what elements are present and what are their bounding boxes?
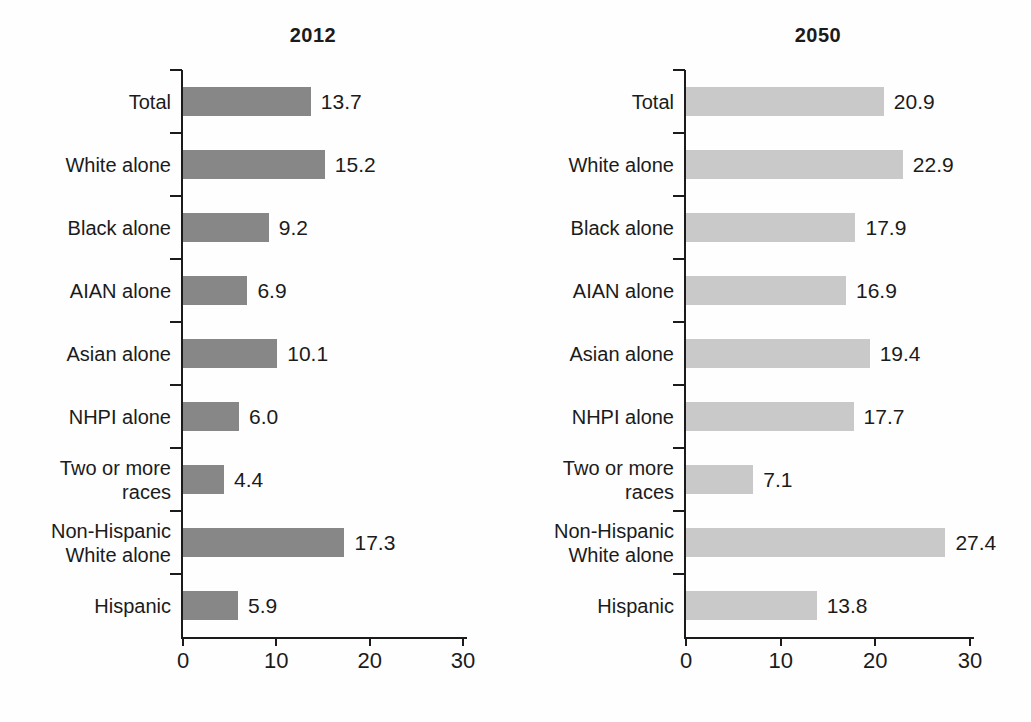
y-axis-tick	[673, 195, 685, 197]
bar	[686, 402, 854, 431]
y-axis-tick	[170, 69, 182, 71]
bar	[686, 339, 870, 368]
category-label: Hispanic	[0, 594, 171, 618]
x-axis-tick	[969, 637, 971, 646]
x-axis-tick	[874, 637, 876, 646]
bar	[183, 591, 238, 620]
category-label: Two or moreraces	[499, 456, 674, 504]
bar-value-label: 7.1	[763, 468, 792, 492]
bar	[686, 213, 855, 242]
category-label: White alone	[499, 153, 674, 177]
x-axis-tick	[462, 637, 464, 646]
bar	[183, 528, 344, 557]
bar-value-label: 17.9	[865, 216, 906, 240]
bar	[183, 402, 239, 431]
x-tick-label: 0	[161, 648, 205, 674]
bar-value-label: 9.2	[279, 216, 308, 240]
bar-value-label: 6.9	[257, 279, 286, 303]
category-label: Black alone	[0, 216, 171, 240]
x-tick-label: 0	[664, 648, 708, 674]
x-axis-tick	[780, 637, 782, 646]
category-label: AIAN alone	[0, 279, 171, 303]
y-axis-tick	[673, 69, 685, 71]
x-tick-label: 30	[441, 648, 485, 674]
category-label: Total	[0, 90, 171, 114]
x-tick-label: 10	[759, 648, 803, 674]
category-label: Total	[499, 90, 674, 114]
y-axis-tick	[673, 510, 685, 512]
bar	[686, 528, 945, 557]
x-tick-label: 20	[853, 648, 897, 674]
y-axis-tick	[673, 573, 685, 575]
y-axis-tick	[673, 258, 685, 260]
bar	[686, 465, 753, 494]
category-label: Black alone	[499, 216, 674, 240]
bar-value-label: 6.0	[249, 405, 278, 429]
bar	[686, 87, 884, 116]
bar-value-label: 22.9	[913, 153, 954, 177]
figure: 2012 2050 0102030Total13.7White alone15.…	[0, 0, 1031, 722]
x-axis-line	[684, 637, 974, 639]
bar	[183, 213, 269, 242]
y-axis-tick	[170, 384, 182, 386]
x-axis-tick	[369, 637, 371, 646]
bar	[183, 339, 277, 368]
bar	[183, 276, 247, 305]
y-axis-tick	[170, 573, 182, 575]
bar-value-label: 16.9	[856, 279, 897, 303]
bar-value-label: 15.2	[335, 153, 376, 177]
y-axis-tick	[170, 132, 182, 134]
category-label: Non-HispanicWhite alone	[499, 519, 674, 567]
bar	[686, 150, 903, 179]
y-axis-tick	[170, 447, 182, 449]
x-tick-label: 20	[348, 648, 392, 674]
bar-value-label: 17.7	[864, 405, 905, 429]
bar-value-label: 13.7	[321, 90, 362, 114]
category-label: Asian alone	[0, 342, 171, 366]
category-label: NHPI alone	[499, 405, 674, 429]
category-label: White alone	[0, 153, 171, 177]
category-label: Two or moreraces	[0, 456, 171, 504]
y-axis-tick	[170, 258, 182, 260]
x-axis-line	[181, 637, 467, 639]
x-axis-tick	[182, 637, 184, 646]
bar-value-label: 4.4	[234, 468, 263, 492]
y-axis-tick	[673, 132, 685, 134]
category-label: Asian alone	[499, 342, 674, 366]
bar-value-label: 20.9	[894, 90, 935, 114]
category-label: Hispanic	[499, 594, 674, 618]
bar	[686, 591, 817, 620]
bar-value-label: 5.9	[248, 594, 277, 618]
y-axis-tick	[673, 384, 685, 386]
bar	[686, 276, 846, 305]
bar-value-label: 27.4	[955, 531, 996, 555]
bar-value-label: 10.1	[287, 342, 328, 366]
bar	[183, 87, 311, 116]
x-tick-label: 10	[254, 648, 298, 674]
category-label: AIAN alone	[499, 279, 674, 303]
category-label: NHPI alone	[0, 405, 171, 429]
y-axis-tick	[673, 321, 685, 323]
y-axis-tick	[170, 195, 182, 197]
x-tick-label: 30	[948, 648, 992, 674]
bar	[183, 465, 224, 494]
bar-value-label: 13.8	[827, 594, 868, 618]
x-axis-tick	[275, 637, 277, 646]
bar-value-label: 19.4	[880, 342, 921, 366]
y-axis-tick	[170, 321, 182, 323]
category-label: Non-HispanicWhite alone	[0, 519, 171, 567]
bar	[183, 150, 325, 179]
chart-title-2050: 2050	[676, 24, 960, 47]
x-axis-tick	[685, 637, 687, 646]
y-axis-tick	[673, 447, 685, 449]
y-axis-tick	[170, 510, 182, 512]
bar-value-label: 17.3	[354, 531, 395, 555]
chart-title-2012: 2012	[173, 24, 453, 47]
